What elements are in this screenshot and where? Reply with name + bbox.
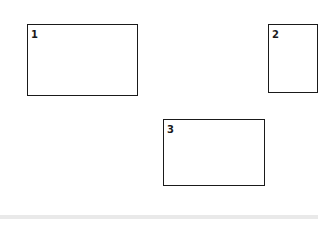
box-1: 1 — [27, 24, 138, 96]
bottom-band — [0, 215, 318, 219]
box-3: 3 — [163, 119, 265, 186]
box-1-label: 1 — [31, 30, 38, 40]
box-2-label: 2 — [272, 30, 279, 40]
box-3-label: 3 — [167, 125, 174, 135]
box-2: 2 — [268, 24, 318, 93]
